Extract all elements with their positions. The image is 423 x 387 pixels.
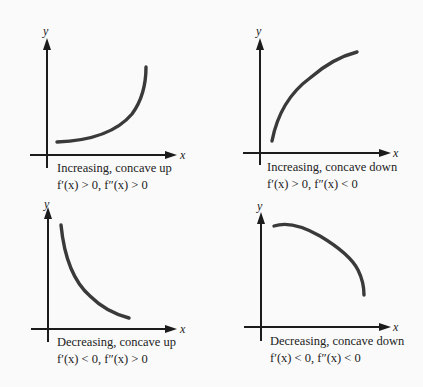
concavity-diagram: y x Increasing, concave up f′(x) > 0, f″…: [0, 0, 423, 387]
x-axis-arrow-icon: [379, 149, 391, 157]
y-axis-arrow-icon: [257, 212, 265, 224]
y-axis-label: y: [42, 24, 49, 38]
panel-increasing-concave-up: y x Increasing, concave up f′(x) > 0, f″…: [30, 24, 186, 192]
condition: f′(x) > 0, f″(x) > 0: [57, 178, 148, 192]
curve: [61, 225, 129, 318]
y-axis-label: y: [255, 24, 262, 38]
caption: Increasing, concave up: [57, 161, 172, 175]
curve: [57, 67, 146, 142]
x-axis-arrow-icon: [165, 325, 177, 333]
panel-decreasing-concave-up: y x Decreasing, concave up f′(x) < 0, f″…: [31, 197, 186, 366]
curve: [272, 52, 357, 141]
caption: Increasing, concave down: [267, 160, 398, 174]
x-axis-label: x: [179, 148, 186, 162]
y-axis-arrow-icon: [43, 38, 51, 50]
x-axis-arrow-icon: [165, 151, 177, 159]
condition: f′(x) < 0, f″(x) < 0: [270, 351, 361, 365]
panel-increasing-concave-down: y x Increasing, concave down f′(x) > 0, …: [243, 24, 399, 191]
caption: Decreasing, concave down: [270, 334, 405, 348]
condition: f′(x) > 0, f″(x) < 0: [267, 177, 358, 191]
x-axis-label: x: [392, 320, 399, 334]
condition: f′(x) < 0, f″(x) > 0: [57, 352, 148, 366]
caption: Decreasing, concave up: [57, 335, 176, 349]
y-axis-arrow-icon: [256, 38, 264, 50]
panel-decreasing-concave-down: y x Decreasing, concave down f′(x) < 0, …: [244, 199, 405, 365]
curve: [274, 224, 364, 295]
x-axis-arrow-icon: [379, 323, 391, 331]
x-axis-label: x: [179, 322, 186, 336]
y-axis-label: y: [43, 197, 50, 211]
x-axis-label: x: [392, 146, 399, 160]
y-axis-label: y: [256, 199, 263, 213]
